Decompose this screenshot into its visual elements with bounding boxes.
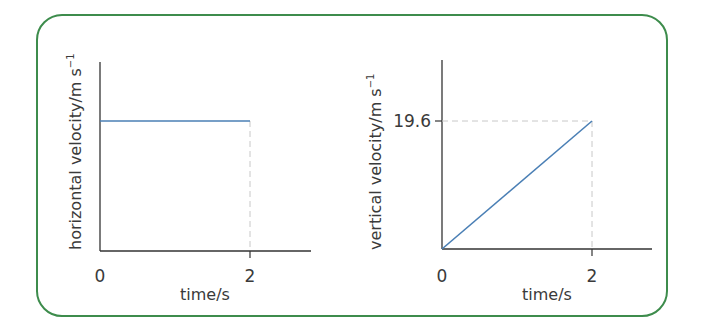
right-tick-label-2: 2 [587, 266, 598, 286]
right-y-label: vertical velocity/m s−1 [365, 74, 385, 250]
left-x-label: time/s [180, 285, 230, 304]
right-x-label: time/s [522, 285, 572, 304]
right-chart: 19.6 0 2 time/s vertical velocity/m s−1 [365, 60, 652, 304]
left-tick-label-0: 0 [95, 266, 106, 286]
left-chart: 0 2 time/s horizontal velocity/m s−1 [65, 53, 311, 304]
right-tick-label-0: 0 [437, 266, 448, 286]
left-y-label: horizontal velocity/m s−1 [65, 53, 85, 250]
right-ytick-label: 19.6 [393, 111, 431, 131]
figure-svg: 0 2 time/s horizontal velocity/m s−1 19.… [0, 0, 702, 333]
left-tick-label-2: 2 [245, 266, 256, 286]
right-velocity-line [442, 121, 592, 249]
